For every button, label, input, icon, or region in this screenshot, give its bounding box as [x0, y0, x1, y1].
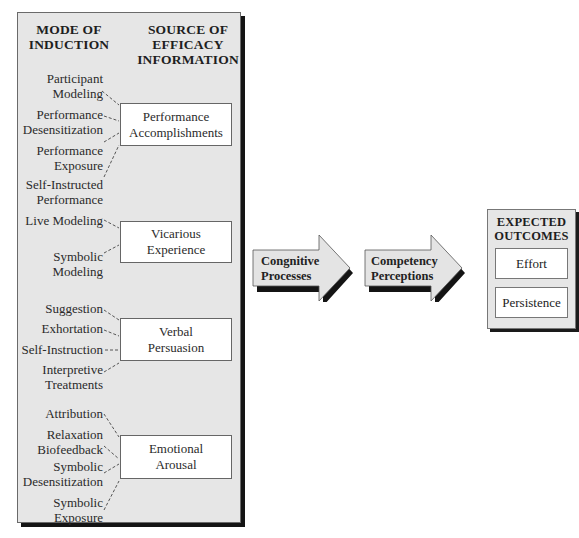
expected-outcomes-panel: EXPECTED OUTCOMES Effort Persistence — [487, 209, 576, 329]
expected-outcomes-title: EXPECTED OUTCOMES — [488, 215, 575, 243]
mode-relaxation-biofeedback: Relaxation Biofeedback — [37, 427, 103, 457]
competency-perceptions-arrow: Competency Perceptions — [364, 232, 466, 302]
title-line: OUTCOMES — [488, 229, 575, 243]
mode-suggestion: Suggestion — [45, 301, 103, 316]
header-line: INFORMATION — [136, 52, 240, 67]
mode-line: Exposure — [37, 158, 103, 173]
header-line: EFFICACY — [136, 37, 240, 52]
mode-live-modeling: Live Modeling — [25, 213, 103, 228]
mode-line: Desensitization — [23, 474, 103, 489]
mode-attribution: Attribution — [45, 406, 103, 421]
mode-line: Symbolic — [23, 459, 103, 474]
mode-performance-desensitization: Performance Desensitization — [23, 107, 103, 137]
mode-line: Desensitization — [23, 122, 103, 137]
mode-line: Participant — [47, 71, 103, 86]
mode-line: Interpretive — [42, 362, 103, 377]
mode-line: Biofeedback — [37, 442, 103, 457]
mode-symbolic-modeling: Symbolic Modeling — [52, 249, 103, 279]
mode-exhortation: Exhortation — [42, 321, 103, 336]
mode-performance-exposure: Performance Exposure — [37, 143, 103, 173]
arrow-label-line: Competency — [371, 254, 438, 269]
title-line: EXPECTED — [488, 215, 575, 229]
source-line: Verbal — [159, 324, 193, 340]
arrow-label-line: Processes — [261, 269, 319, 284]
source-line: Persuasion — [148, 340, 204, 356]
mode-line: Performance — [23, 107, 103, 122]
mode-line: Self-Instructed — [26, 177, 103, 192]
source-line: Accomplishments — [129, 125, 223, 141]
efficacy-sources-panel: MODE OF INDUCTION SOURCE OF EFFICACY INF… — [17, 12, 241, 523]
source-line: Emotional — [149, 441, 203, 457]
mode-line: Relaxation — [37, 427, 103, 442]
mode-column: Participant Modeling Performance Desensi… — [18, 13, 103, 522]
source-vicarious-experience: Vicarious Experience — [120, 221, 232, 263]
source-line: Experience — [147, 242, 205, 258]
source-emotional-arousal: Emotional Arousal — [120, 435, 232, 479]
mode-line: Symbolic — [53, 495, 103, 510]
mode-line: Performance — [26, 192, 103, 207]
arrow-label-line: Perceptions — [371, 269, 438, 284]
source-line: Vicarious — [151, 226, 201, 242]
mode-line: Modeling — [47, 86, 103, 101]
mode-line: Symbolic — [52, 249, 103, 264]
mode-line: Performance — [37, 143, 103, 158]
mode-participant-modeling: Participant Modeling — [47, 71, 103, 101]
cognitive-processes-arrow: Congnitive Processes — [252, 232, 354, 302]
mode-line: Attribution — [45, 406, 103, 421]
mode-self-instructed-performance: Self-Instructed Performance — [26, 177, 103, 207]
mode-line: Exposure — [53, 510, 103, 525]
source-line: Arousal — [155, 457, 196, 473]
mode-line: Self-Instruction — [21, 342, 103, 357]
outcome-effort: Effort — [495, 248, 568, 279]
mode-self-instruction: Self-Instruction — [21, 342, 103, 357]
mode-line: Treatments — [42, 377, 103, 392]
source-performance-accomplishments: Performance Accomplishments — [120, 103, 232, 146]
mode-line: Exhortation — [42, 321, 103, 336]
source-of-efficacy-header: SOURCE OF EFFICACY INFORMATION — [136, 22, 240, 67]
mode-line: Modeling — [52, 264, 103, 279]
header-line: SOURCE OF — [136, 22, 240, 37]
arrow-label: Competency Perceptions — [371, 254, 438, 284]
mode-line: Live Modeling — [25, 213, 103, 228]
mode-interpretive-treatments: Interpretive Treatments — [42, 362, 103, 392]
mode-symbolic-exposure: Symbolic Exposure — [53, 495, 103, 525]
arrow-label-line: Congnitive — [261, 254, 319, 269]
mode-line: Suggestion — [45, 301, 103, 316]
source-verbal-persuasion: Verbal Persuasion — [120, 318, 232, 361]
source-line: Performance — [143, 109, 209, 125]
outcome-persistence: Persistence — [495, 287, 568, 318]
arrow-label: Congnitive Processes — [261, 254, 319, 284]
mode-symbolic-desensitization: Symbolic Desensitization — [23, 459, 103, 489]
